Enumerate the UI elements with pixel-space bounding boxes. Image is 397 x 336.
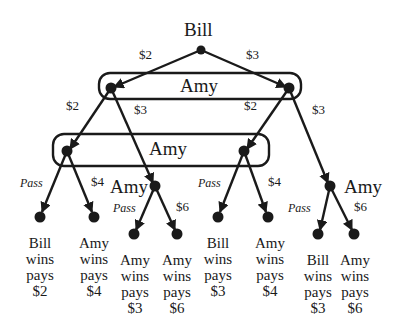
info-set-2-label: Amy <box>149 139 187 158</box>
info-set-1-label: Amy <box>180 76 218 95</box>
outcome-label: Amywinspays$4 <box>72 235 116 299</box>
move-label: Pass <box>198 177 221 189</box>
move-label: $2 <box>66 99 79 112</box>
amy-node-left-label: Amy <box>110 177 148 196</box>
amy-node-1r <box>284 83 295 94</box>
move-label: $2 <box>139 48 152 61</box>
move-label: Pass <box>288 202 311 214</box>
outcome-label: Amywinspays$4 <box>248 235 292 299</box>
amy-node-3r <box>325 181 336 192</box>
move-label: $2 <box>244 99 257 112</box>
move-label: $6 <box>176 200 189 213</box>
move-label: $3 <box>312 103 325 116</box>
outcome-label: Billwinspays$2 <box>18 235 62 299</box>
root-player-label: Bill <box>184 20 213 39</box>
move-label: $6 <box>354 200 367 213</box>
outcome-label: Billwinspays$3 <box>196 235 240 299</box>
outcome-label: Amywinspays$6 <box>333 252 377 316</box>
move-label: $3 <box>134 103 147 116</box>
root-node <box>197 46 206 55</box>
amy-node-3l <box>150 181 161 192</box>
amy-node-right-label: Amy <box>344 177 382 196</box>
move-label: Pass <box>113 202 136 214</box>
amy-node-1l <box>106 83 117 94</box>
move-label: $4 <box>268 175 281 188</box>
amy-node-2r <box>239 146 250 157</box>
move-label: $3 <box>246 48 259 61</box>
amy-node-2l <box>62 146 73 157</box>
move-label: $4 <box>91 175 104 188</box>
outcome-label: Amywinspays$3 <box>113 252 157 316</box>
outcome-label: Amywinspays$6 <box>155 252 199 316</box>
move-label: Pass <box>20 177 43 189</box>
